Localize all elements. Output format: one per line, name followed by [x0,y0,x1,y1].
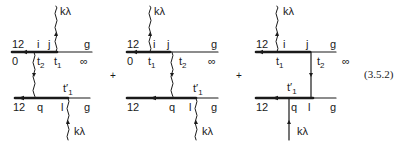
photon-label: kλ [74,126,85,137]
state-label: 12 [256,39,268,50]
state-label: g [84,102,90,113]
state-label: g [330,102,336,113]
photon-label: kλ [60,6,71,17]
emitted-photon-2 [149,6,151,52]
plus-operator: + [236,70,242,81]
state-label: q [169,102,175,113]
state-label: i [283,39,285,50]
photon-label: kλ [283,6,294,17]
state-label: j [306,39,308,50]
diagram-1 [12,6,92,140]
state-label: g [211,39,217,50]
photon-label: kλ [297,126,308,137]
state-label: i [153,39,155,50]
time-label: ∞ [342,56,350,67]
time-label: ∞ [80,56,88,67]
time-label: t′1 [193,83,203,95]
state-label: q [291,102,297,113]
time-label: t′1 [287,82,297,94]
photon-label: kλ [154,6,165,17]
time-label: t1 [54,56,62,68]
time-label: t′1 [63,83,73,95]
absorbed-photon-1 [67,98,69,140]
state-label: g [84,39,90,50]
photon-label: kλ [202,126,213,137]
state-label: l [189,102,191,113]
emitted-photon-1 [55,6,57,52]
time-label: t2 [179,56,187,68]
time-label: t1 [276,56,284,68]
time-label: 0 [12,56,18,67]
state-label: 12 [13,102,25,113]
state-label: q [37,102,43,113]
state-label: 12 [127,102,139,113]
state-label: g [211,102,217,113]
time-label: ∞ [208,56,216,67]
state-label: l [61,102,63,113]
state-label: j [48,39,50,50]
diagram-3 [256,6,336,140]
state-label: 12 [256,102,268,113]
time-label: t1 [148,56,156,68]
state-label: 12 [12,39,24,50]
absorbed-photon-2 [195,98,197,140]
emitted-photon-3 [276,6,278,52]
state-label: l [308,102,310,113]
state-label: 12 [127,39,139,50]
time-label: t2 [317,56,325,68]
equation-number: (3.5.2) [364,68,393,80]
state-label: g [330,39,336,50]
diagram-2 [127,6,218,140]
time-label: t2 [37,56,45,68]
state-label: j [167,39,169,50]
time-label: 0 [127,56,133,67]
plus-operator: + [110,70,116,81]
state-label: i [37,39,39,50]
